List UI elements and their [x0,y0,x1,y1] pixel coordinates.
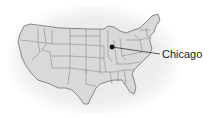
us-map: Chicago [0,0,210,118]
chicago-marker-dot [110,45,115,50]
chicago-label: Chicago [162,48,202,60]
us-outline [18,14,160,104]
